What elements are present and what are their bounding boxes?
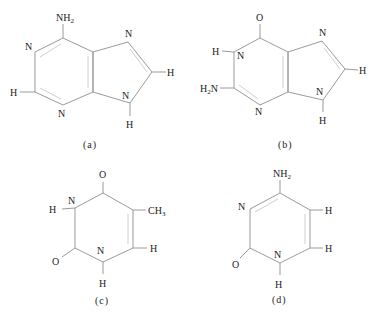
o4-label: O [99,169,106,180]
h6-label: H [325,243,332,254]
h6-label: H [150,243,157,254]
n3-label: N [68,195,75,206]
n9-label: N [316,86,323,97]
caption-b: (b) [278,139,293,151]
n1-label: N [97,245,104,256]
nh2-label: NH2 [56,12,74,25]
o2-label: O [232,259,239,270]
nucleobase-figure: NH2 N H N N H N H (a) O H N H2N N N H N … [0,0,379,318]
guanine-six-ring [234,38,288,105]
structure-c-thymine: O N H CH3 H N H O (c) [49,169,166,307]
o2-label: O [52,256,59,267]
n1-label: N [237,50,244,61]
n1-label: N [25,41,32,52]
caption-c: (c) [95,295,109,307]
n1-label: N [274,249,281,260]
structure-b-guanine: O H N H2N N N H N H (b) [200,12,366,151]
adenine-six-ring [35,38,93,105]
structure-d-cytosine: NH2 N H H N H O (d) [232,168,332,306]
h3-label: H [49,204,56,215]
nh2-label: NH2 [273,168,291,181]
h2-label: H [10,87,17,98]
h9-label: H [319,115,326,126]
h1-label: H [275,279,282,290]
ch3-label: CH3 [148,205,166,218]
o6-label: O [256,12,263,23]
structure-a-adenine: NH2 N H N N H N H (a) [10,12,174,151]
caption-a: (a) [83,139,97,151]
n7-label: N [125,28,132,39]
n7-label: N [319,27,326,38]
n9-label: N [122,90,129,101]
h2n-label: H2N [200,83,218,96]
n3-label: N [238,201,245,212]
h1-label: H [99,278,106,289]
h9-label: H [126,119,133,130]
n3-label: N [58,108,65,119]
caption-d: (d) [272,294,287,306]
h8-label: H [359,65,366,76]
h1-label: H [212,46,219,57]
h8-label: H [167,67,174,78]
h5-label: H [325,205,332,216]
n3-label: N [255,106,262,117]
